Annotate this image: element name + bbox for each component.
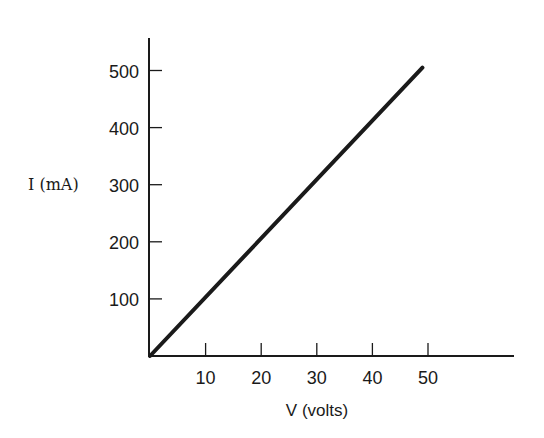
- y-axis-label: I (mA): [28, 175, 79, 194]
- iv-chart: 1002003004005001020304050 I (mA) V (volt…: [0, 0, 544, 438]
- y-tick-label: 300: [109, 176, 139, 196]
- x-axis-label: V (volts): [286, 401, 348, 420]
- y-tick-label: 200: [109, 233, 139, 253]
- y-tick-label: 500: [109, 62, 139, 82]
- x-tick-label: 50: [418, 368, 438, 388]
- series: [150, 68, 422, 356]
- axes: [148, 38, 514, 357]
- x-tick-label: 20: [251, 368, 271, 388]
- x-tick-label: 10: [196, 368, 216, 388]
- y-tick-label: 100: [109, 290, 139, 310]
- y-tick-label: 400: [109, 119, 139, 139]
- iv-line: [150, 68, 422, 356]
- x-tick-label: 30: [307, 368, 327, 388]
- x-tick-label: 40: [362, 368, 382, 388]
